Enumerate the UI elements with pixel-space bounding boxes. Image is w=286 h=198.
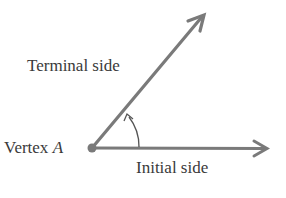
- terminal-side-label: Terminal side: [27, 57, 120, 74]
- rotation-arc-arrow: [124, 114, 139, 147]
- initial-side-ray: [92, 141, 267, 156]
- initial-side-label: Initial side: [136, 159, 208, 176]
- angle-diagram: Terminal side Vertex A Initial side: [0, 0, 286, 198]
- vertex-point: [88, 144, 97, 153]
- vertex-label-name: A: [53, 138, 63, 157]
- terminal-side-ray: [92, 15, 204, 148]
- vertex-label: Vertex A: [4, 139, 63, 156]
- vertex-label-prefix: Vertex: [4, 138, 48, 157]
